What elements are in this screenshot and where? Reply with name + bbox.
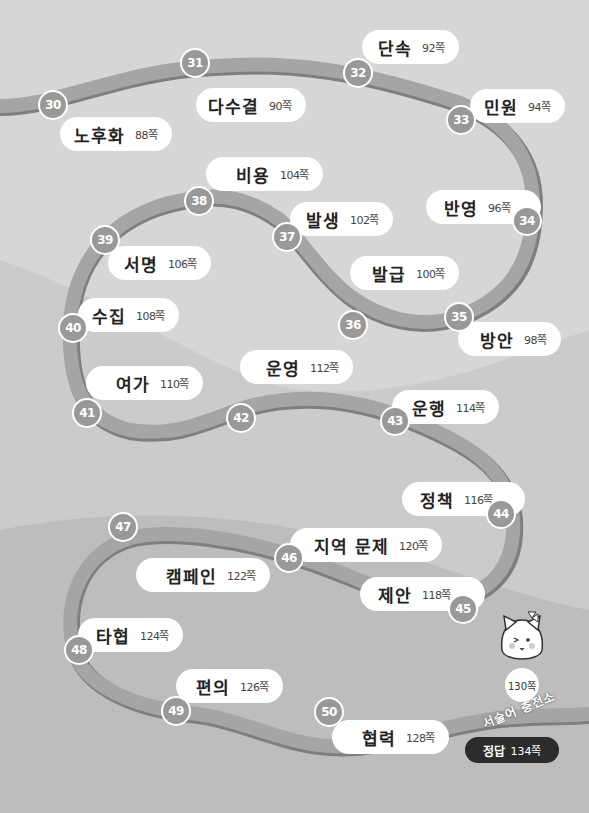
stop-number-badge: 48 [64,635,94,665]
stop-label[interactable]: 다수결 90쪽 [196,88,306,122]
stop-page: 92쪽 [422,39,445,55]
stop-page: 128쪽 [406,729,435,745]
stop-word: 여가 [116,371,150,396]
stop-number-badge: 40 [58,313,88,343]
stop-number-badge: 42 [226,403,256,433]
stop-number-badge: 44 [486,499,516,529]
stop-number-badge: 33 [446,105,476,135]
stop-word: 방안 [480,327,514,352]
stop-label[interactable]: 지역 문제 120쪽 [290,528,442,562]
stop-word: 수집 [92,303,126,328]
stop-label[interactable]: 단속 92쪽 [362,30,459,64]
stop-label[interactable]: 수집 108쪽 [78,298,179,332]
stop-word: 반영 [444,195,478,220]
stop-word: 편의 [196,674,230,699]
stop-word: 지역 문제 [314,533,389,558]
stop-word: 다수결 [208,93,259,118]
stop-page: 118쪽 [422,586,451,602]
stop-word: 민원 [484,94,518,119]
stop-page: 112쪽 [310,359,339,375]
stop-word: 운행 [412,395,446,420]
stop-page: 126쪽 [240,678,269,694]
stop-word: 제안 [378,582,412,607]
stop-label[interactable]: 노후화 88쪽 [60,117,172,151]
stop-label[interactable]: 캠페인 122쪽 [136,558,270,592]
stop-label[interactable]: 발생 102쪽 [290,202,393,236]
stop-label[interactable]: 운영 112쪽 [240,350,353,384]
stop-word: 단속 [378,35,412,60]
stop-number-badge: 30 [38,90,68,120]
stop-label[interactable]: 협력 128쪽 [332,720,449,754]
stop-word: 운영 [266,355,300,380]
stop-number-badge: 35 [444,302,474,332]
stop-number-badge: 34 [512,206,542,236]
stop-word: 비용 [236,162,270,187]
stop-page: 96쪽 [488,199,511,215]
stop-word: 노후화 [74,122,125,147]
stop-label[interactable]: 방안 98쪽 [458,322,561,356]
stop-word: 서명 [124,251,158,276]
stop-page: 106쪽 [168,255,197,271]
stop-label[interactable]: 서명 106쪽 [108,246,211,280]
stop-word: 정책 [420,487,454,512]
stop-page: 104쪽 [280,166,309,182]
stop-number-badge: 41 [72,398,102,428]
stop-page: 94쪽 [528,98,551,114]
stop-page: 100쪽 [416,265,445,281]
stop-number-badge: 37 [272,222,302,252]
stop-page: 110쪽 [160,375,189,391]
answer-label: 정답 [483,742,505,759]
stop-number-badge: 32 [343,58,373,88]
stop-number-badge: 50 [314,697,344,727]
stop-label[interactable]: 비용 104쪽 [206,157,323,191]
stop-word: 협력 [362,725,396,750]
stop-label[interactable]: 편의 126쪽 [176,669,283,703]
stop-page: 120쪽 [399,537,428,553]
stop-word: 타협 [96,623,130,648]
stop-label[interactable]: 여가 110쪽 [86,366,203,400]
stop-number-badge: 39 [90,225,120,255]
stop-page: 108쪽 [136,307,165,323]
stop-word: 발생 [306,207,340,232]
stop-page: 114쪽 [456,399,485,415]
stop-page: 98쪽 [524,331,547,347]
stop-page: 90쪽 [269,97,292,113]
stop-number-badge: 31 [180,48,210,78]
stop-number-badge: 49 [161,696,191,726]
stop-word: 캠페인 [166,563,217,588]
stop-number-badge: 45 [448,594,478,624]
answer-page: 134쪽 [511,742,542,758]
stop-number-badge: 38 [184,186,214,216]
stop-number-badge: 46 [274,543,304,573]
stop-number-badge: 47 [108,512,138,542]
stop-page: 124쪽 [140,627,169,643]
stop-label[interactable]: 발급 100쪽 [350,256,459,290]
finale-page-circle[interactable]: 130쪽 [505,668,539,702]
stop-word: 발급 [372,261,406,286]
stop-page: 102쪽 [350,211,379,227]
stop-page: 122쪽 [227,567,256,583]
stop-page: 88쪽 [135,126,158,142]
answer-button[interactable]: 정답 134쪽 [465,737,559,763]
stop-number-badge: 43 [380,406,410,436]
stop-label[interactable]: 민원 94쪽 [470,89,565,123]
stop-number-badge: 36 [338,310,368,340]
